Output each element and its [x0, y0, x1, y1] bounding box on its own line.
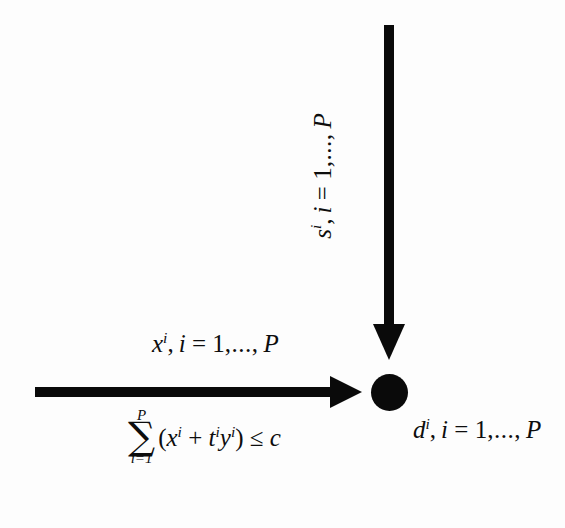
s-flow-upper: P: [309, 113, 336, 128]
diagram-canvas: xi, i = 1,..., P si, i = 1,..., P di, i …: [0, 0, 565, 528]
arrows-layer: [0, 0, 565, 528]
s-flow-variable: s: [309, 229, 336, 239]
constraint-bound: c: [270, 424, 281, 451]
d-node-index-var: i: [441, 416, 448, 443]
d-node-one: 1: [475, 416, 488, 443]
flow-node-dot: [371, 374, 408, 411]
x-flow-index-var: i: [179, 330, 186, 357]
x-flow-comma: ,: [167, 330, 173, 357]
constraint-term-x-sup: i: [178, 422, 182, 439]
plus-operator: +: [188, 424, 202, 451]
s-flow-comma: ,: [309, 218, 336, 224]
s-flow-label: si, i = 1,..., P: [310, 113, 335, 238]
summation-lower-limit: i=1: [131, 451, 153, 466]
x-flow-ellipsis: ,...,: [225, 330, 259, 357]
s-flow-equals: =: [309, 186, 336, 200]
x-flow-equals: =: [192, 330, 206, 357]
d-node-upper: P: [526, 416, 541, 443]
x-flow-upper: P: [264, 330, 279, 357]
x-flow-one: 1: [212, 330, 225, 357]
constraint-term-y: y: [220, 424, 231, 451]
close-paren: ): [235, 424, 243, 451]
less-equal-operator: ≤: [250, 424, 264, 451]
summation-operator: P ∑ i=1: [128, 408, 155, 466]
s-flow-index-var: i: [309, 206, 336, 213]
s-flow-superscript: i: [307, 225, 324, 229]
d-node-variable: d: [413, 416, 426, 443]
d-node-ellipsis: ,...,: [487, 416, 521, 443]
horizontal-input-arrow: [35, 376, 362, 408]
d-node-equals: =: [454, 416, 468, 443]
x-flow-label: xi, i = 1,..., P: [152, 331, 279, 356]
budget-constraint: P ∑ i=1 (xi + tiyi) ≤ c: [128, 408, 281, 466]
constraint-term-x: x: [166, 424, 177, 451]
d-node-comma: ,: [430, 416, 436, 443]
summation-sigma-icon: ∑: [128, 421, 155, 452]
s-flow-one: 1: [309, 167, 336, 180]
d-node-label: di, i = 1,..., P: [413, 417, 541, 442]
s-flow-ellipsis: ,...,: [309, 134, 336, 168]
x-flow-variable: x: [152, 330, 163, 357]
constraint-expression: (xi + tiyi) ≤ c: [158, 425, 281, 450]
vertical-supply-arrow: [373, 25, 405, 360]
